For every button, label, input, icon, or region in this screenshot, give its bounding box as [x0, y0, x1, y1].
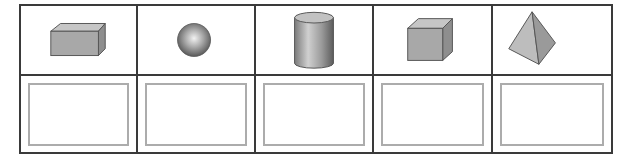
cuboid-icon: [21, 6, 136, 74]
shapes-table: Cuboid Sphere: [19, 4, 613, 154]
answer-box[interactable]: [381, 83, 484, 146]
answer-cell-cuboid: [21, 76, 138, 152]
shape-cell-sphere: Sphere: [138, 6, 256, 76]
worksheet: Cuboid Sphere: [0, 0, 630, 156]
shape-cell-cylinder: Cylinder: [256, 6, 374, 76]
shape-cell-cube: Cube: [374, 6, 493, 76]
answer-cell-sphere: [138, 76, 256, 152]
cylinder-icon: [256, 6, 372, 74]
answer-cell-pyramid: [493, 76, 611, 152]
pyramid-icon: [493, 6, 611, 74]
answer-box[interactable]: [263, 83, 365, 146]
shape-cell-cuboid: Cuboid: [21, 6, 138, 76]
answer-box[interactable]: [28, 83, 129, 146]
sphere-icon: [138, 6, 254, 74]
answer-box[interactable]: [145, 83, 247, 146]
answer-cell-cylinder: [256, 76, 374, 152]
answer-box[interactable]: [500, 83, 604, 146]
cube-icon: [374, 6, 491, 74]
answer-cell-cube: [374, 76, 493, 152]
shape-cell-pyramid: Triangular pyramid: [493, 6, 611, 76]
